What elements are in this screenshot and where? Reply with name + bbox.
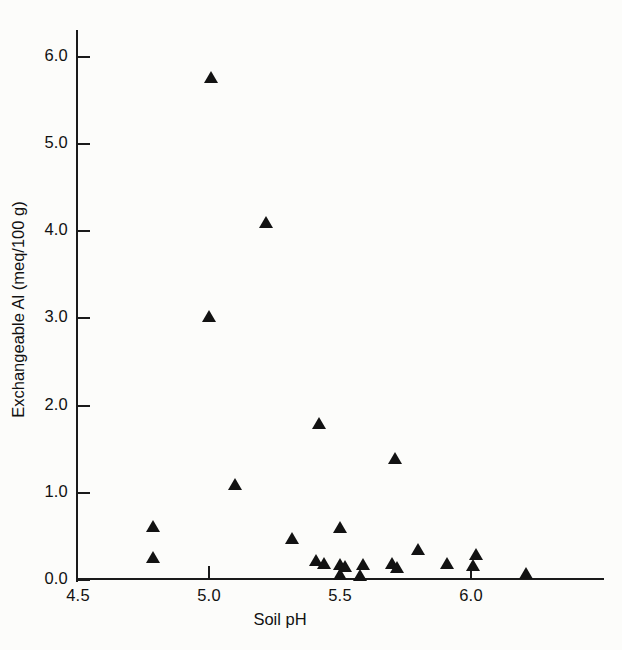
data-point-triangle <box>259 216 273 228</box>
y-tick-label: 2.0 <box>20 395 68 414</box>
x-tick-mark <box>470 566 472 580</box>
data-point-triangle <box>390 561 404 573</box>
y-tick-mark <box>78 143 90 145</box>
data-point-triangle <box>146 520 160 532</box>
y-tick-mark <box>78 405 90 407</box>
x-axis-title: Soil pH <box>0 610 560 629</box>
data-point-triangle <box>228 478 242 490</box>
y-tick-mark <box>78 317 90 319</box>
x-tick-mark <box>208 566 210 580</box>
y-tick-label: 4.0 <box>20 220 68 239</box>
data-point-triangle <box>312 417 326 429</box>
data-point-triangle <box>519 567 533 579</box>
data-point-triangle <box>146 551 160 563</box>
data-point-triangle <box>285 532 299 544</box>
data-point-triangle <box>204 71 218 83</box>
data-point-triangle <box>411 543 425 555</box>
data-point-triangle <box>440 557 454 569</box>
y-axis-line <box>76 30 78 582</box>
y-tick-label: 6.0 <box>20 46 68 65</box>
data-point-triangle <box>317 557 331 569</box>
y-tick-mark <box>78 56 90 58</box>
y-tick-label: 5.0 <box>20 133 68 152</box>
data-point-triangle <box>466 559 480 571</box>
data-point-triangle <box>202 310 216 322</box>
data-point-triangle <box>309 554 323 566</box>
y-tick-mark <box>78 579 90 581</box>
y-tick-label: 1.0 <box>20 482 68 501</box>
data-point-triangle <box>469 548 483 560</box>
y-tick-label: 3.0 <box>20 307 68 326</box>
x-tick-label: 5.0 <box>181 586 237 605</box>
x-tick-mark <box>339 566 341 580</box>
x-tick-label: 5.5 <box>312 586 368 605</box>
x-tick-label: 4.5 <box>50 586 106 605</box>
y-tick-mark <box>78 492 90 494</box>
data-point-triangle <box>388 452 402 464</box>
data-point-triangle <box>356 558 370 570</box>
scatter-plot-figure: Exchangeable Al (meq/100 g) 0.01.02.03.0… <box>0 0 622 650</box>
x-tick-label: 6.0 <box>443 586 499 605</box>
data-point-triangle <box>333 521 347 533</box>
data-point-triangle <box>385 557 399 569</box>
y-tick-mark <box>78 230 90 232</box>
